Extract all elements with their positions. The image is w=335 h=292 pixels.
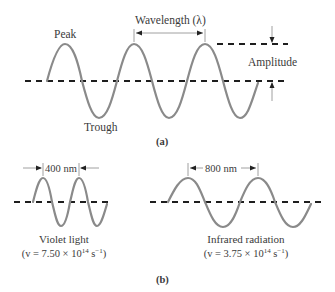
violet-arrow-left-icon xyxy=(80,166,86,171)
peak-label: Peak xyxy=(54,28,77,40)
infrared-name: Infrared radiation xyxy=(207,233,285,245)
trough-label: Trough xyxy=(84,121,118,134)
wave-diagram: Peak Trough Wavelength (λ) Amplitude (a)… xyxy=(0,0,335,292)
infrared-arrow-left-icon xyxy=(190,166,196,171)
panel-b-infrared: 800 nm Infrared radiation (v = 3.75 × 10… xyxy=(150,163,322,260)
violet-name: Violet light xyxy=(39,233,89,245)
violet-arrow-right-icon xyxy=(36,166,42,171)
panel-b-caption: (b) xyxy=(156,274,169,286)
wavelength-label: Wavelength (λ) xyxy=(135,14,206,27)
panel-a-caption: (a) xyxy=(156,136,169,148)
violet-wavelength-label: 400 nm xyxy=(45,163,77,174)
panel-a: Peak Trough Wavelength (λ) Amplitude (a) xyxy=(25,14,297,148)
wavelength-arrow-left-icon xyxy=(136,31,142,36)
amplitude-arrow-up-icon xyxy=(270,82,275,88)
infrared-frequency: (v = 3.75 × 1014 s−1) xyxy=(204,247,289,260)
infrared-wavelength-label: 800 nm xyxy=(205,163,237,174)
wavelength-arrow-right-icon xyxy=(197,31,203,36)
infrared-arrow-right-icon xyxy=(250,166,256,171)
violet-frequency: (v = 7.50 × 1014 s−1) xyxy=(22,247,107,260)
amplitude-label: Amplitude xyxy=(248,56,297,69)
amplitude-arrow-down-icon xyxy=(270,37,275,43)
wave-infrared xyxy=(168,178,311,227)
panel-b-violet: 400 nm Violet light (v = 7.50 × 1014 s−1… xyxy=(14,163,110,260)
